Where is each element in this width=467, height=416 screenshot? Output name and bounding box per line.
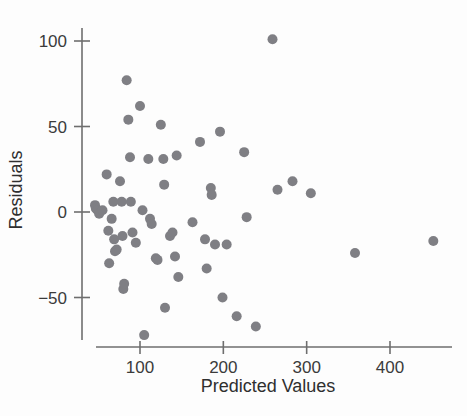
y-tick-label: 100	[39, 32, 67, 51]
data-point	[122, 75, 132, 85]
data-point	[139, 330, 149, 340]
data-point	[207, 190, 217, 200]
data-point	[119, 279, 129, 289]
data-point	[153, 255, 163, 265]
data-point	[210, 239, 220, 249]
data-point	[123, 115, 133, 125]
data-point	[222, 239, 232, 249]
data-point	[288, 176, 298, 186]
data-point	[147, 219, 157, 229]
data-point	[242, 212, 252, 222]
plot-canvas: −50050100 100200300400 Residuals Predict…	[0, 0, 467, 416]
data-point	[126, 197, 136, 207]
data-point	[143, 154, 153, 164]
data-point	[117, 197, 127, 207]
data-point	[273, 185, 283, 195]
data-point	[202, 263, 212, 273]
data-point	[131, 238, 141, 248]
x-tick-label: 300	[292, 358, 320, 377]
data-point	[306, 188, 316, 198]
data-point	[239, 147, 249, 157]
data-point	[172, 151, 182, 161]
data-point	[218, 293, 228, 303]
y-tick-label: 0	[58, 203, 67, 222]
data-point	[200, 234, 210, 244]
data-point	[251, 322, 261, 332]
data-point	[188, 217, 198, 227]
data-point	[128, 228, 138, 238]
data-point	[195, 137, 205, 147]
y-tick-label: 50	[48, 118, 67, 137]
data-point	[160, 303, 170, 313]
data-point	[138, 205, 148, 215]
data-point	[103, 226, 113, 236]
x-tick-label: 100	[126, 358, 154, 377]
data-point	[268, 34, 278, 44]
data-point	[107, 214, 117, 224]
data-point	[112, 245, 122, 255]
data-point	[115, 176, 125, 186]
data-point	[168, 228, 178, 238]
y-tick-label: −50	[38, 289, 67, 308]
data-point	[104, 258, 114, 268]
data-point	[118, 231, 128, 241]
data-point	[159, 180, 169, 190]
data-points-layer	[90, 34, 438, 340]
data-point	[102, 169, 112, 179]
data-point	[125, 152, 135, 162]
data-point	[232, 311, 242, 321]
x-tick-label: 200	[209, 358, 237, 377]
data-point	[173, 272, 183, 282]
data-point	[135, 101, 145, 111]
y-axis-title: Residuals	[6, 150, 26, 229]
data-point	[350, 248, 360, 258]
data-point	[428, 236, 438, 246]
scatter-plot-figure: −50050100 100200300400 Residuals Predict…	[0, 0, 467, 416]
data-point	[158, 154, 168, 164]
data-point	[98, 205, 108, 215]
data-point	[215, 127, 225, 137]
x-tick-label: 400	[376, 358, 404, 377]
data-point	[156, 120, 166, 130]
data-point	[170, 251, 180, 261]
x-axis-title: Predicted Values	[201, 376, 336, 396]
